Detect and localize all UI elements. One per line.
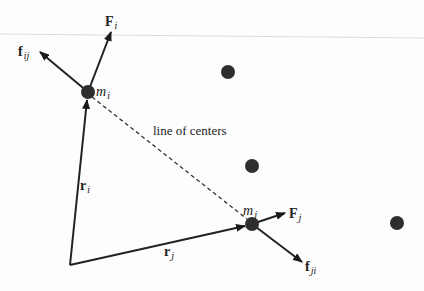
label-r-j: rj	[164, 244, 174, 261]
vector-f-ij	[40, 52, 88, 92]
faint-horizontal-line	[0, 34, 424, 38]
vector-r-j	[70, 226, 245, 265]
label-F-i: Fi	[105, 14, 117, 31]
label-line-of-centers: line of centers	[153, 124, 227, 137]
particle-other-2	[245, 159, 259, 173]
label-F-j: Fj	[289, 206, 301, 223]
label-m-i: mi	[96, 84, 110, 101]
label-f-ji: fji	[305, 259, 316, 276]
particle-other-3	[390, 216, 404, 230]
diagram-svg	[0, 0, 424, 291]
diagram-canvas: Fi fij mi line of centers ri rj mj Fj fj…	[0, 0, 424, 291]
line-of-centers	[92, 97, 247, 219]
particle-m-i	[81, 85, 95, 99]
vector-F-i	[88, 32, 111, 92]
particle-other-1	[221, 65, 235, 79]
label-r-i: ri	[80, 178, 90, 195]
vector-f-ji	[252, 224, 302, 262]
label-f-ij: fij	[18, 44, 29, 61]
label-m-j: mj	[243, 203, 257, 220]
